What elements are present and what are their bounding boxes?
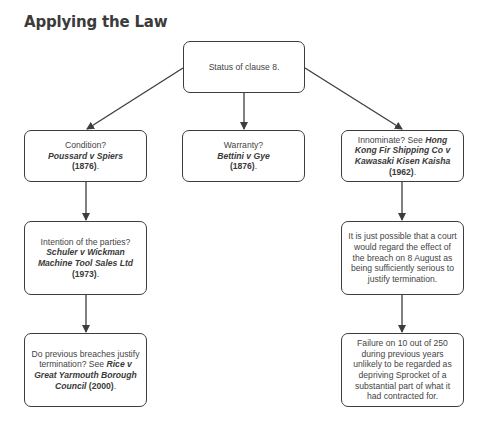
node-failure: Failure on 10 out of 250 during previous… (341, 333, 464, 407)
case-name: Poussard v Spiers (48, 151, 123, 161)
edge-root-innominate (305, 68, 402, 129)
case-year: (1962) (389, 167, 414, 177)
case-year: (1876) (230, 161, 255, 171)
punct: . (414, 167, 416, 177)
punct: . (97, 269, 99, 279)
case-year: (1973) (72, 269, 97, 279)
node-status-of-clause: Status of clause 8. (183, 41, 305, 93)
node-previous-breaches: Do previous breaches justify termination… (24, 333, 147, 407)
node-condition: Condition? Poussard v Spiers (1876). (24, 130, 147, 182)
node-intention: Intention of the parties? Schuler v Wick… (24, 221, 147, 295)
node-lead: Intention of the parties? (41, 237, 131, 247)
node-possible-termination: It is just possible that a court would r… (341, 221, 464, 295)
node-innominate: Innominate? See Hong Kong Fir Shipping C… (341, 130, 464, 182)
node-text: Status of clause 8. (209, 62, 280, 73)
punct: . (114, 381, 116, 391)
node-text: It is just possible that a court would r… (347, 231, 458, 285)
node-warranty: Warranty? Bettini v Gye (1876). (182, 130, 305, 182)
edge-root-condition (87, 68, 183, 129)
node-text: Failure on 10 out of 250 during previous… (347, 338, 458, 402)
node-lead: Condition? (65, 140, 106, 150)
node-lead: Warranty? (224, 140, 263, 150)
case-name: Bettini v Gye (217, 151, 270, 161)
punct: . (255, 161, 257, 171)
case-name: Schuler v Wickman Machine Tool Sales Ltd (38, 247, 133, 268)
node-lead: Innominate? See (358, 135, 425, 145)
case-year: (2000) (89, 381, 114, 391)
punct: . (97, 161, 99, 171)
case-year: (1876) (72, 161, 97, 171)
